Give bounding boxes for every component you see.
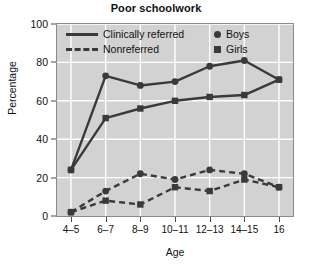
y-axis: 020406080100 xyxy=(0,23,56,217)
x-tick-label: 16 xyxy=(273,224,284,235)
data-point-circle xyxy=(241,170,248,177)
y-tick-label: 80 xyxy=(36,56,48,68)
legend-label: Girls xyxy=(226,43,248,55)
data-point-square xyxy=(137,105,143,111)
x-tick-mark xyxy=(244,217,245,222)
data-point-square xyxy=(172,184,178,190)
chart-figure: Poor schoolwork Percentage 020406080100 … xyxy=(0,0,312,271)
x-tick-label: 14–15 xyxy=(230,224,258,235)
x-tick-mark xyxy=(279,217,280,222)
data-point-circle xyxy=(172,78,179,85)
solid-line-icon xyxy=(66,33,98,36)
y-tick-label: 60 xyxy=(36,95,48,107)
data-point-square xyxy=(102,115,108,121)
data-point-circle xyxy=(137,170,144,177)
x-tick-label: 6–7 xyxy=(97,224,114,235)
data-point-square xyxy=(276,76,282,82)
data-point-square xyxy=(276,184,282,190)
legend-label: Clinically referred xyxy=(103,28,184,40)
data-point-circle xyxy=(137,82,144,89)
legend-entry-marker: Girls xyxy=(214,42,248,55)
legend-label: Boys xyxy=(226,28,249,40)
dashed-line-icon xyxy=(66,48,98,51)
data-point-circle xyxy=(102,72,109,79)
x-tick-mark xyxy=(71,217,72,222)
data-point-square xyxy=(241,176,247,182)
x-tick-label: 10–11 xyxy=(161,224,188,235)
legend-label: Nonreferred xyxy=(103,43,159,55)
data-point-circle xyxy=(206,167,213,174)
y-tick-label: 20 xyxy=(36,172,48,184)
legend-entry-line: Nonreferred xyxy=(66,42,159,55)
chart-title: Poor schoolwork xyxy=(0,2,312,14)
y-tick-label: 40 xyxy=(36,133,48,145)
x-tick-mark xyxy=(140,217,141,222)
x-tick-label: 4–5 xyxy=(63,224,80,235)
y-tick-label: 0 xyxy=(42,210,48,222)
chart-legend: Clinically referredNonreferredBoysGirls xyxy=(66,27,286,61)
x-tick-mark xyxy=(175,217,176,222)
square-marker-icon xyxy=(214,46,221,53)
circle-marker-icon xyxy=(214,31,221,38)
x-axis-title: Age xyxy=(56,246,294,258)
data-point-square xyxy=(241,92,247,98)
data-point-square xyxy=(172,98,178,104)
data-point-square xyxy=(68,209,74,215)
x-axis: 4–56–78–910–1112–1314–1516 xyxy=(56,217,294,241)
x-tick-mark xyxy=(210,217,211,222)
data-point-square xyxy=(206,94,212,100)
data-point-circle xyxy=(172,176,179,183)
data-point-square xyxy=(68,167,74,173)
data-point-circle xyxy=(206,63,213,70)
x-tick-label: 8–9 xyxy=(132,224,149,235)
x-tick-mark xyxy=(106,217,107,222)
legend-entry-marker: Boys xyxy=(214,27,249,40)
legend-entry-line: Clinically referred xyxy=(66,27,184,40)
data-point-square xyxy=(102,197,108,203)
data-point-square xyxy=(206,188,212,194)
data-point-circle xyxy=(102,188,109,195)
x-tick-label: 12–13 xyxy=(196,224,224,235)
y-tick-label: 100 xyxy=(30,18,48,30)
data-point-square xyxy=(137,201,143,207)
